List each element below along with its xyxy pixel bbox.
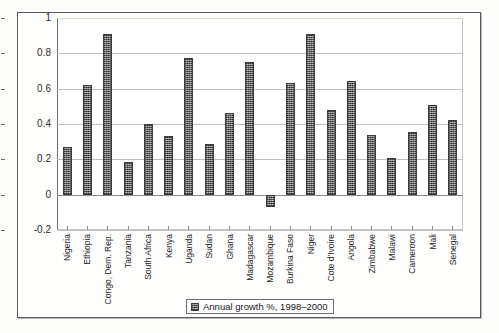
x-axis-category-label: Tanzania: [124, 234, 133, 268]
bar[interactable]: [286, 83, 295, 194]
bar-slot: [219, 18, 239, 230]
bar-slot: [402, 18, 422, 230]
y-axis-tick-label: 1: [5, 13, 51, 23]
bar[interactable]: [164, 136, 173, 194]
x-axis-label-slot: Madagascar: [240, 234, 260, 296]
bar-slot: [422, 18, 442, 230]
x-axis-category-label: Uganda: [184, 234, 193, 264]
y-axis-tick-label: 0.4: [5, 119, 51, 129]
chart-figure: 10.80.60.40.20-0.2 NigeriaEthiopiaCongo,…: [0, 0, 499, 333]
bar-slot: [362, 18, 382, 230]
bar-slot: [199, 18, 219, 230]
bar[interactable]: [83, 85, 92, 195]
x-axis-label-slot: South Africa: [138, 234, 158, 296]
x-axis-tick-mark: [391, 226, 392, 230]
bar-slot: [57, 18, 77, 230]
x-axis-tick-mark: [87, 226, 88, 230]
bar-slot: [341, 18, 361, 230]
x-axis-category-label: South Africa: [144, 234, 153, 280]
bar[interactable]: [428, 105, 437, 195]
bar-slot: [240, 18, 260, 230]
x-axis-tick-mark: [67, 226, 68, 230]
bar[interactable]: [63, 147, 72, 195]
x-axis-label-slot: Malawi: [382, 234, 402, 296]
x-axis-category-label: Ethiopia: [83, 234, 92, 265]
x-axis-label-slot: Mali: [422, 234, 442, 296]
bar-slot: [301, 18, 321, 230]
x-axis-label-slot: Niger: [301, 234, 321, 296]
x-axis-label-slot: Cote d'Ivoire: [321, 234, 341, 296]
y-axis-tick-mark: [1, 124, 5, 125]
bar[interactable]: [205, 144, 214, 194]
bar[interactable]: [184, 58, 193, 195]
y-axis-tick-label: 0.8: [5, 48, 51, 58]
x-axis-category-label: Ghana: [225, 234, 234, 260]
x-axis-label-slot: Mozambique: [260, 234, 280, 296]
bar[interactable]: [408, 132, 417, 195]
bar-slot: [77, 18, 97, 230]
bar-slot: [138, 18, 158, 230]
x-axis-category-label: Zimbabwe: [367, 234, 376, 273]
x-axis-category-label: Congo, Dem. Rep.: [103, 234, 112, 304]
y-axis-tick-label: 0: [5, 190, 51, 200]
bar[interactable]: [387, 158, 396, 195]
x-axis-label-slot: Kenya: [159, 234, 179, 296]
y-axis-tick-mark: [1, 53, 5, 54]
bar[interactable]: [103, 34, 112, 195]
bar-slot: [179, 18, 199, 230]
bar-slot: [260, 18, 280, 230]
y-axis-tick-mark: [1, 89, 5, 90]
x-axis-category-label: Niger: [306, 234, 315, 254]
x-axis-category-label: Mali: [428, 234, 437, 250]
y-axis-tick-mark: [1, 230, 5, 231]
x-axis-label-slot: Nigeria: [57, 234, 77, 296]
x-axis-category-label: Nigeria: [63, 234, 72, 261]
bar[interactable]: [225, 113, 234, 195]
x-axis-category-label: Senegal: [448, 234, 457, 265]
x-axis-tick-mark: [310, 226, 311, 230]
bar[interactable]: [266, 195, 275, 207]
x-axis-label-slot: Angola: [341, 234, 361, 296]
x-axis-label-slot: Zimbabwe: [362, 234, 382, 296]
bar-slot: [98, 18, 118, 230]
y-axis-tick-label: -0.2: [5, 225, 51, 235]
bar[interactable]: [144, 124, 153, 195]
legend-label: Annual growth %, 1998–2000: [203, 302, 328, 312]
x-axis-tick-mark: [249, 226, 250, 230]
x-axis-category-label: Angola: [347, 234, 356, 260]
x-axis-tick-mark: [270, 226, 271, 230]
x-axis-tick-mark: [107, 226, 108, 230]
bar-slot: [118, 18, 138, 230]
x-axis-category-labels: NigeriaEthiopiaCongo, Dem. Rep.TanzaniaS…: [57, 234, 463, 296]
bar[interactable]: [347, 81, 356, 195]
x-axis-tick-mark: [452, 226, 453, 230]
y-axis-tick-label: 0.6: [5, 84, 51, 94]
bar[interactable]: [124, 162, 133, 195]
x-axis-tick-mark: [148, 226, 149, 230]
bar[interactable]: [367, 135, 376, 195]
x-axis-label-slot: Congo, Dem. Rep.: [98, 234, 118, 296]
x-axis-tick-mark: [432, 226, 433, 230]
bar[interactable]: [448, 120, 457, 195]
x-axis-label-slot: Tanzania: [118, 234, 138, 296]
x-axis-category-label: Madagascar: [245, 234, 254, 281]
bar-slot: [159, 18, 179, 230]
bar[interactable]: [306, 34, 315, 195]
x-axis-tick-mark: [412, 226, 413, 230]
x-axis-category-label: Cameroon: [408, 234, 417, 274]
x-axis-category-label: Kenya: [164, 234, 173, 258]
x-axis-label-slot: Cameroon: [402, 234, 422, 296]
x-axis-tick-mark: [209, 226, 210, 230]
x-axis-label-slot: Uganda: [179, 234, 199, 296]
legend-swatch-icon: [191, 303, 199, 311]
x-axis-label-slot: Ethiopia: [77, 234, 97, 296]
bar-series: [57, 18, 463, 230]
y-axis-tick-mark: [1, 159, 5, 160]
x-axis-label-slot: Burkina Faso: [280, 234, 300, 296]
x-axis-category-label: Burkina Faso: [286, 234, 295, 284]
bar[interactable]: [245, 62, 254, 195]
bar-slot: [382, 18, 402, 230]
x-axis-tick-mark: [229, 226, 230, 230]
x-axis-tick-mark: [371, 226, 372, 230]
bar[interactable]: [327, 110, 336, 195]
